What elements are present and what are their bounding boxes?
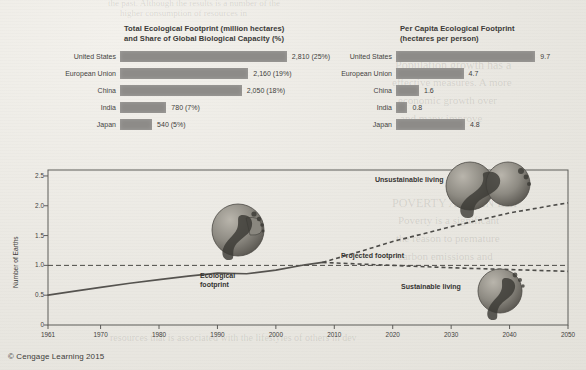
- y-axis-tick-label: 0.5: [20, 291, 44, 298]
- bar-value-label: 780 (7%): [171, 104, 200, 111]
- y-axis-tick-label: 2.5: [20, 172, 44, 179]
- x-axis-tick-label: 1990: [203, 331, 231, 338]
- bar-fill: [120, 51, 287, 62]
- bar-value-label: 2,810 (25%): [292, 53, 330, 60]
- per-capita-ecological-footprint-chart: Per Capita Ecological Footprint (hectare…: [330, 24, 578, 135]
- bar-fill: [396, 51, 535, 62]
- x-axis-tick-label: 1970: [87, 331, 115, 338]
- bar-category-label: Japan: [330, 121, 396, 128]
- bar-fill: [120, 119, 152, 130]
- x-axis-tick-label: 2030: [437, 331, 465, 338]
- bar-fill: [120, 85, 242, 96]
- line-chart-svg: [0, 158, 586, 358]
- bar-category-label: Japan: [16, 121, 120, 128]
- bar-category-label: European Union: [330, 70, 396, 77]
- bar-track: 4.8: [396, 119, 578, 130]
- globe-footprint-icon-unsustainable: [446, 162, 531, 218]
- bar-fill: [120, 102, 166, 113]
- bar-category-label: India: [16, 104, 120, 111]
- globe-footprint-icon-sustainable: [478, 269, 525, 320]
- bar-row: China1.6: [330, 84, 578, 96]
- bar-value-label: 540 (5%): [157, 121, 186, 128]
- bar-fill: [120, 68, 248, 79]
- bar-fill: [396, 119, 465, 130]
- bar-category-label: United States: [16, 53, 120, 60]
- bar-track: 4.7: [396, 68, 578, 79]
- bar-value-label: 2,050 (18%): [247, 87, 285, 94]
- right-chart-bar-rows: United States9.7European Union4.7China1.…: [330, 50, 578, 130]
- x-axis-tick-label: 2040: [496, 331, 524, 338]
- ecological-footprint-line: [48, 262, 323, 295]
- right-chart-title: Per Capita Ecological Footprint (hectare…: [330, 24, 578, 44]
- bar-value-label: 4.7: [469, 70, 479, 77]
- y-axis-tick-label: 1.0: [20, 261, 44, 268]
- bar-row: United States2,810 (25%): [16, 50, 316, 62]
- left-chart-title-line2: and Share of Global Biological Capacity …: [124, 34, 316, 44]
- y-axis-ticks: [44, 176, 48, 325]
- annotation-unsustainable-living: Unsustainable living: [375, 176, 443, 185]
- bar-track: 2,160 (19%): [120, 68, 316, 79]
- y-axis-tick-label: 0: [20, 321, 44, 328]
- bar-track: 1.6: [396, 85, 578, 96]
- bar-category-label: China: [330, 87, 396, 94]
- globe-footprint-icon-ecological: [212, 204, 265, 260]
- bar-track: 540 (5%): [120, 119, 316, 130]
- bar-track: 9.7: [396, 51, 578, 62]
- bar-track: 2,810 (25%): [120, 51, 316, 62]
- bar-row: India0.8: [330, 101, 578, 113]
- x-axis-tick-label: 2010: [320, 331, 348, 338]
- annotation-ecological-footprint-line2: footprint: [200, 281, 235, 290]
- x-axis-tick-label: 2050: [554, 331, 582, 338]
- bar-row: Japan4.8: [330, 118, 578, 130]
- left-chart-title: Total Ecological Footprint (million hect…: [16, 24, 316, 44]
- number-of-earths-line-chart: Number of Earths 00.51.01.52.02.5 196119…: [0, 158, 586, 358]
- bar-track: 2,050 (18%): [120, 85, 316, 96]
- bar-track: 780 (7%): [120, 102, 316, 113]
- y-axis-tick-label: 1.5: [20, 232, 44, 239]
- bar-value-label: 9.7: [540, 53, 550, 60]
- left-chart-title-line1: Total Ecological Footprint (million hect…: [124, 24, 316, 34]
- bar-value-label: 1.6: [424, 87, 434, 94]
- x-axis-tick-label: 1980: [145, 331, 173, 338]
- bar-fill: [396, 102, 407, 113]
- copyright-notice: © Cengage Learning 2015: [8, 352, 104, 361]
- bar-row: China2,050 (18%): [16, 84, 316, 96]
- y-axis-tick-label: 2.0: [20, 202, 44, 209]
- annotation-projected-footprint: Projected footprint: [341, 252, 404, 261]
- bar-fill: [396, 68, 464, 79]
- bar-row: European Union2,160 (19%): [16, 67, 316, 79]
- bar-row: Japan540 (5%): [16, 118, 316, 130]
- annotation-ecological-footprint: Ecological footprint: [200, 272, 235, 290]
- x-axis-tick-label: 2000: [262, 331, 290, 338]
- x-axis-tick-label: 1961: [34, 331, 62, 338]
- bar-row: India780 (7%): [16, 101, 316, 113]
- bar-category-label: United States: [330, 53, 396, 60]
- bar-value-label: 2,160 (19%): [253, 70, 291, 77]
- x-axis-tick-label: 2020: [379, 331, 407, 338]
- bar-value-label: 0.8: [412, 104, 422, 111]
- projected-sustainable-line: [323, 262, 568, 271]
- bar-category-label: India: [330, 104, 396, 111]
- left-chart-bar-rows: United States2,810 (25%)European Union2,…: [16, 50, 316, 130]
- bar-row: European Union4.7: [330, 67, 578, 79]
- x-axis-ticks: [48, 325, 568, 329]
- annotation-ecological-footprint-line1: Ecological: [200, 272, 235, 281]
- bar-fill: [396, 85, 419, 96]
- bar-category-label: China: [16, 87, 120, 94]
- right-chart-title-line2: (hectares per person): [400, 34, 578, 44]
- right-chart-title-line1: Per Capita Ecological Footprint: [400, 24, 578, 34]
- bar-value-label: 4.8: [470, 121, 480, 128]
- bar-track: 0.8: [396, 102, 578, 113]
- y-axis-title: Number of Earths: [12, 236, 19, 288]
- annotation-sustainable-living: Sustainable living: [401, 283, 461, 292]
- bar-row: United States9.7: [330, 50, 578, 62]
- total-ecological-footprint-chart: Total Ecological Footprint (million hect…: [16, 24, 316, 135]
- bar-category-label: European Union: [16, 70, 120, 77]
